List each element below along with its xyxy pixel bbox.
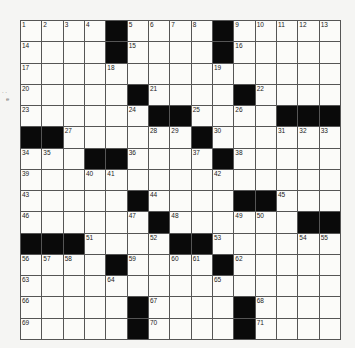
- grid-cell[interactable]: [42, 42, 62, 62]
- grid-cell[interactable]: [234, 170, 254, 190]
- grid-cell[interactable]: [192, 191, 212, 211]
- grid-cell[interactable]: [192, 212, 212, 232]
- grid-cell[interactable]: 60: [170, 255, 190, 275]
- grid-cell[interactable]: [320, 149, 340, 169]
- grid-cell[interactable]: 61: [192, 255, 212, 275]
- grid-cell[interactable]: [64, 191, 84, 211]
- grid-cell[interactable]: [213, 319, 233, 339]
- grid-cell[interactable]: [106, 106, 126, 126]
- grid-cell[interactable]: [149, 255, 169, 275]
- grid-cell[interactable]: 28: [149, 127, 169, 147]
- grid-cell[interactable]: [256, 170, 276, 190]
- grid-cell[interactable]: [170, 191, 190, 211]
- grid-cell[interactable]: 45: [277, 191, 297, 211]
- grid-cell[interactable]: [106, 212, 126, 232]
- grid-cell[interactable]: 57: [42, 255, 62, 275]
- grid-cell[interactable]: 52: [149, 234, 169, 254]
- grid-cell[interactable]: [170, 170, 190, 190]
- grid-cell[interactable]: [234, 234, 254, 254]
- grid-cell[interactable]: [170, 42, 190, 62]
- grid-cell[interactable]: [298, 85, 318, 105]
- grid-cell[interactable]: 27: [64, 127, 84, 147]
- grid-cell[interactable]: 58: [64, 255, 84, 275]
- grid-cell[interactable]: [170, 85, 190, 105]
- grid-cell[interactable]: 17: [21, 64, 41, 84]
- grid-cell[interactable]: [256, 276, 276, 296]
- grid-cell[interactable]: 46: [21, 212, 41, 232]
- grid-cell[interactable]: [192, 42, 212, 62]
- grid-cell[interactable]: [277, 319, 297, 339]
- grid-cell[interactable]: [213, 191, 233, 211]
- grid-cell[interactable]: 36: [128, 149, 148, 169]
- grid-cell[interactable]: [149, 170, 169, 190]
- grid-cell[interactable]: [256, 255, 276, 275]
- grid-cell[interactable]: 5: [128, 21, 148, 41]
- grid-cell[interactable]: 10: [256, 21, 276, 41]
- grid-cell[interactable]: [128, 276, 148, 296]
- grid-cell[interactable]: [85, 319, 105, 339]
- grid-cell[interactable]: [64, 85, 84, 105]
- grid-cell[interactable]: [106, 85, 126, 105]
- grid-cell[interactable]: 14: [21, 42, 41, 62]
- grid-cell[interactable]: [85, 276, 105, 296]
- grid-cell[interactable]: [42, 64, 62, 84]
- grid-cell[interactable]: 44: [149, 191, 169, 211]
- grid-cell[interactable]: 70: [149, 319, 169, 339]
- grid-cell[interactable]: 55: [320, 234, 340, 254]
- grid-cell[interactable]: [170, 276, 190, 296]
- grid-cell[interactable]: 30: [213, 127, 233, 147]
- grid-cell[interactable]: [277, 149, 297, 169]
- grid-cell[interactable]: 7: [170, 21, 190, 41]
- grid-cell[interactable]: [149, 42, 169, 62]
- grid-cell[interactable]: [106, 127, 126, 147]
- grid-cell[interactable]: 62: [234, 255, 254, 275]
- grid-cell[interactable]: [85, 127, 105, 147]
- grid-cell[interactable]: 38: [234, 149, 254, 169]
- grid-cell[interactable]: [320, 276, 340, 296]
- grid-cell[interactable]: 16: [234, 42, 254, 62]
- grid-cell[interactable]: 34: [21, 149, 41, 169]
- grid-cell[interactable]: [192, 64, 212, 84]
- grid-cell[interactable]: [106, 319, 126, 339]
- grid-cell[interactable]: [85, 85, 105, 105]
- grid-cell[interactable]: [256, 149, 276, 169]
- grid-cell[interactable]: [298, 297, 318, 317]
- grid-cell[interactable]: 31: [277, 127, 297, 147]
- grid-cell[interactable]: [85, 64, 105, 84]
- grid-cell[interactable]: [128, 234, 148, 254]
- grid-cell[interactable]: 63: [21, 276, 41, 296]
- grid-cell[interactable]: [128, 64, 148, 84]
- grid-cell[interactable]: 19: [213, 64, 233, 84]
- grid-cell[interactable]: 68: [256, 297, 276, 317]
- grid-cell[interactable]: [256, 234, 276, 254]
- grid-cell[interactable]: 39: [21, 170, 41, 190]
- grid-cell[interactable]: 43: [21, 191, 41, 211]
- grid-cell[interactable]: [42, 191, 62, 211]
- grid-cell[interactable]: [149, 276, 169, 296]
- grid-cell[interactable]: [42, 297, 62, 317]
- grid-cell[interactable]: [213, 212, 233, 232]
- grid-cell[interactable]: [192, 85, 212, 105]
- grid-cell[interactable]: [213, 106, 233, 126]
- grid-cell[interactable]: [170, 319, 190, 339]
- grid-cell[interactable]: 3: [64, 21, 84, 41]
- grid-cell[interactable]: 2: [42, 21, 62, 41]
- grid-cell[interactable]: [320, 319, 340, 339]
- grid-cell[interactable]: [298, 42, 318, 62]
- grid-cell[interactable]: [298, 255, 318, 275]
- grid-cell[interactable]: [64, 297, 84, 317]
- grid-cell[interactable]: 26: [234, 106, 254, 126]
- grid-cell[interactable]: 13: [320, 21, 340, 41]
- grid-cell[interactable]: [256, 127, 276, 147]
- grid-cell[interactable]: 50: [256, 212, 276, 232]
- grid-cell[interactable]: 48: [170, 212, 190, 232]
- grid-cell[interactable]: [64, 64, 84, 84]
- grid-cell[interactable]: [277, 170, 297, 190]
- grid-cell[interactable]: [213, 85, 233, 105]
- grid-cell[interactable]: [256, 64, 276, 84]
- grid-cell[interactable]: [85, 212, 105, 232]
- grid-cell[interactable]: [256, 42, 276, 62]
- grid-cell[interactable]: [234, 127, 254, 147]
- grid-cell[interactable]: 40: [85, 170, 105, 190]
- grid-cell[interactable]: 37: [192, 149, 212, 169]
